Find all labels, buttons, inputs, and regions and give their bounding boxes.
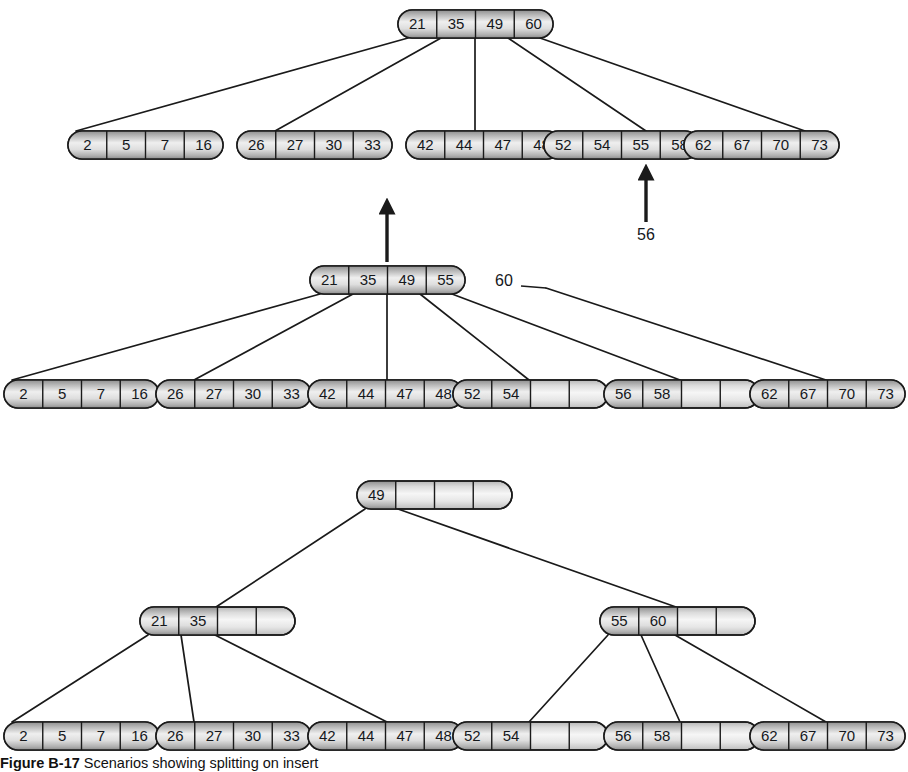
tree-after-leaf-split-promoted-key-label-60: 60 <box>495 272 513 289</box>
tree-after-root-split-edge <box>529 635 608 722</box>
tree-after-root-split-edge <box>398 509 676 607</box>
node-cell-value: 16 <box>195 136 212 153</box>
node-cell-value: 70 <box>839 727 856 744</box>
tree-after-root-split-edge <box>12 635 148 722</box>
tree-after-leaf-split-leaf-node-5: 5658 <box>604 380 759 408</box>
node-cell-value: 35 <box>360 271 377 288</box>
tree-before-insert-leaf-node-5: 62677073 <box>684 131 839 159</box>
tree-before-insert-leaf-node-3: 42444748 <box>406 131 561 159</box>
tree-after-root-split-leaf-node-5: 5658 <box>604 722 759 750</box>
node-cell-value: 55 <box>437 271 454 288</box>
node-cell-value: 42 <box>417 136 434 153</box>
node-cell-value: 48 <box>435 385 452 402</box>
node-cell-value: 33 <box>283 727 300 744</box>
node-cell-value: 52 <box>464 385 481 402</box>
tree-after-leaf-split-leaf-node-6: 62677073 <box>750 380 905 408</box>
node-cell-value: 67 <box>800 727 817 744</box>
node-cell-value: 26 <box>167 385 184 402</box>
tree-before-insert-leaf-node-4: 52545558 <box>544 131 699 159</box>
node-cell-value: 54 <box>594 136 611 153</box>
node-cell-value: 21 <box>409 15 426 32</box>
node-cell-value: 62 <box>761 385 778 402</box>
node-cell-value: 21 <box>151 612 168 629</box>
tree-after-root-split-leaf-node-1: 25716 <box>4 722 159 750</box>
node-cell-value: 52 <box>464 727 481 744</box>
node-cell-value: 33 <box>364 136 381 153</box>
node-cell-value: 49 <box>399 271 416 288</box>
node-cell-value: 55 <box>633 136 650 153</box>
node-cell-value: 47 <box>397 727 414 744</box>
tree-after-leaf-split-edge <box>420 294 529 380</box>
tree-after-root-split-internal-node-left: 2135 <box>140 607 295 635</box>
tree-after-leaf-split-root-node: 21354955 <box>310 266 465 294</box>
tree-after-root-split-root-node: 49 <box>357 481 512 509</box>
node-cell-value: 5 <box>58 727 66 744</box>
node-cell-value: 54 <box>503 727 520 744</box>
tree-after-root-split-edge <box>641 635 680 722</box>
tree-after-root-split-leaf-node-3: 42444748 <box>308 722 463 750</box>
tree-after-leaf-split-edge <box>452 294 680 380</box>
node-cell-value: 48 <box>435 727 452 744</box>
node-cell-value: 54 <box>503 385 520 402</box>
node-cell-value: 60 <box>650 612 667 629</box>
node-cell-value: 58 <box>654 385 671 402</box>
node-cell-value: 73 <box>877 727 894 744</box>
node-cell-value: 27 <box>287 136 304 153</box>
node-cell-value: 42 <box>319 727 336 744</box>
tree-after-leaf-split-promoted-key-leader <box>521 286 546 288</box>
node-cell-value: 44 <box>358 727 375 744</box>
tree-after-leaf-split-leaf-node-4: 5254 <box>453 380 608 408</box>
node-cell-value: 49 <box>368 486 385 503</box>
node-cell-value: 47 <box>397 385 414 402</box>
tree-after-leaf-split-edge <box>546 288 826 380</box>
node-cell-value: 52 <box>555 136 572 153</box>
node-cell-value: 30 <box>245 385 262 402</box>
tree-before-insert-edge <box>508 38 646 131</box>
node-cell-value: 33 <box>283 385 300 402</box>
figure-caption-label: Figure B-17 <box>0 755 80 771</box>
node-cell-value: 27 <box>206 385 223 402</box>
node-cell-value: 47 <box>495 136 512 153</box>
nodes-layer: 2135496025716262730334244474852545558626… <box>4 10 905 750</box>
tree-after-root-split-leaf-node-2: 26273033 <box>156 722 311 750</box>
node-cell-value: 56 <box>615 727 632 744</box>
node-cell-value: 5 <box>58 385 66 402</box>
tree-after-root-split-leaf-node-4: 5254 <box>453 722 608 750</box>
tree-before-insert-leaf-node-2: 26273033 <box>237 131 392 159</box>
tree-before-insert-edge <box>540 38 805 131</box>
node-cell-value: 73 <box>811 136 828 153</box>
tree-before-insert-leaf-node-1: 25716 <box>68 131 223 159</box>
node-cell-value: 7 <box>97 385 105 402</box>
node-cell-value: 56 <box>615 385 632 402</box>
node-cell-value: 7 <box>161 136 169 153</box>
tree-after-root-split-internal-node-right: 5560 <box>600 607 755 635</box>
btree-figure: 2135496025716262730334244474852545558626… <box>0 0 908 772</box>
node-cell-value: 44 <box>358 385 375 402</box>
node-cell-value: 35 <box>448 15 465 32</box>
node-cell-value: 35 <box>190 612 207 629</box>
node-cell-value: 16 <box>131 727 148 744</box>
tree-after-root-split-edge <box>675 635 826 722</box>
tree-after-root-split-leaf-node-6: 62677073 <box>750 722 905 750</box>
node-cell-value: 16 <box>131 385 148 402</box>
tree-after-leaf-split-leaf-node-1: 25716 <box>4 380 159 408</box>
node-cell-value: 42 <box>319 385 336 402</box>
node-cell-value: 70 <box>773 136 790 153</box>
node-cell-value: 73 <box>877 385 894 402</box>
tree-before-insert-root-node: 21354960 <box>398 10 553 38</box>
node-cell-value: 49 <box>487 15 504 32</box>
node-cell-value: 2 <box>19 727 27 744</box>
node-cell-value: 70 <box>839 385 856 402</box>
btree-diagram-canvas: 2135496025716262730334244474852545558626… <box>0 0 908 772</box>
node-cell-value: 30 <box>326 136 343 153</box>
node-cell-value: 21 <box>321 271 338 288</box>
node-cell-value: 26 <box>167 727 184 744</box>
node-cell-value: 2 <box>19 385 27 402</box>
node-cell-value: 67 <box>734 136 751 153</box>
tree-after-root-split-edge <box>215 635 387 722</box>
node-cell-value: 60 <box>525 15 542 32</box>
figure-caption-text: Scenarios showing splitting on insert <box>84 755 319 771</box>
node-cell-value: 67 <box>800 385 817 402</box>
node-cell-value: 7 <box>97 727 105 744</box>
tree-after-leaf-split-leaf-node-2: 26273033 <box>156 380 311 408</box>
